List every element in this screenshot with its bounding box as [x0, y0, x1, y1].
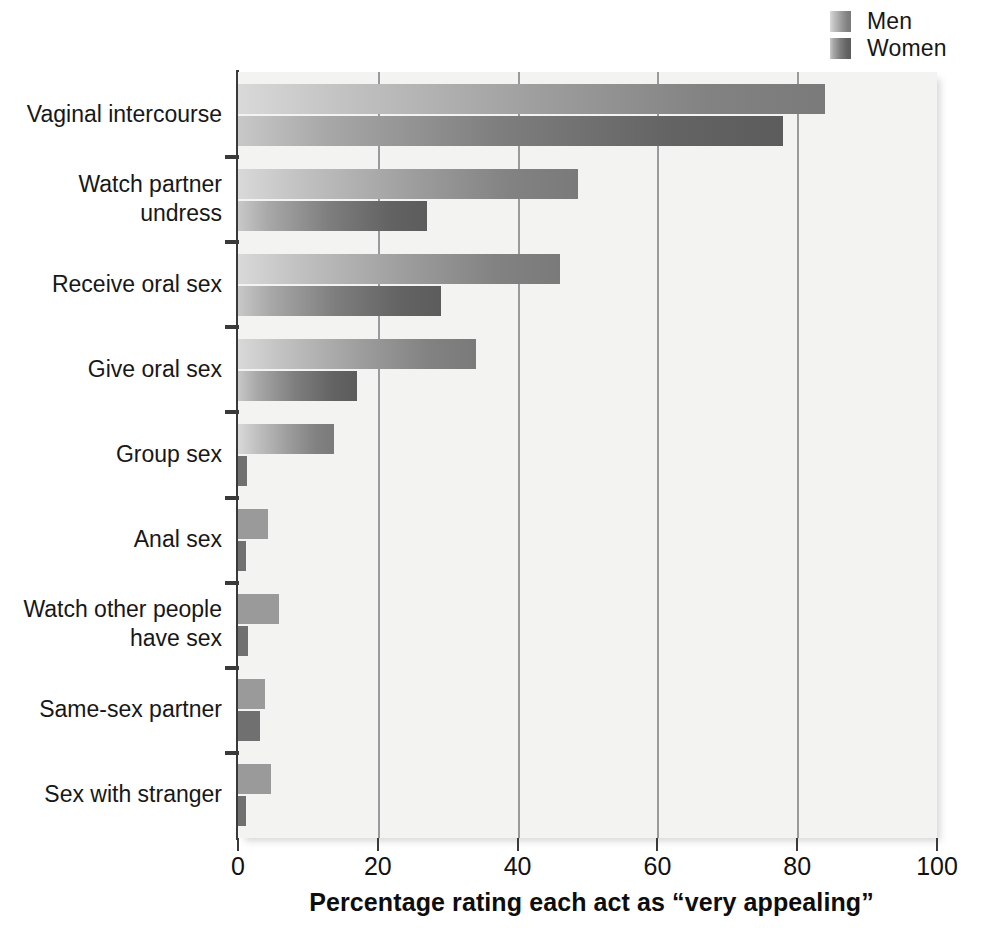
group-tick-3 — [225, 325, 239, 329]
bar-men-2 — [238, 254, 560, 284]
category-label-5: Anal sex — [134, 525, 222, 554]
chart-figure: Men Women Vaginal intercourseWatch partn… — [0, 0, 1003, 946]
x-tick-label-80: 80 — [752, 852, 842, 880]
bar-women-5 — [238, 541, 246, 571]
x-tick-0 — [237, 838, 239, 851]
x-tick-label-40: 40 — [473, 852, 563, 880]
plot-area — [238, 72, 937, 838]
bar-women-0 — [238, 116, 783, 146]
legend-label-women: Women — [867, 37, 947, 60]
category-label-1: Watch partner undress — [78, 170, 222, 228]
bar-men-1 — [238, 169, 578, 199]
bar-women-4 — [238, 456, 247, 486]
bar-men-3 — [238, 339, 476, 369]
group-tick-5 — [225, 496, 239, 500]
bar-women-2 — [238, 286, 441, 316]
category-label-0: Vaginal intercourse — [27, 100, 222, 129]
gridline-80 — [797, 72, 799, 838]
chart-legend: Men Women — [830, 8, 990, 62]
x-tick-20 — [377, 838, 379, 851]
legend-swatch-men — [830, 11, 851, 32]
legend-swatch-women — [830, 38, 851, 59]
bar-men-5 — [238, 509, 268, 539]
x-tick-label-20: 20 — [333, 852, 423, 880]
x-tick-60 — [656, 838, 658, 851]
category-label-7: Same-sex partner — [39, 695, 222, 724]
category-label-2: Receive oral sex — [52, 270, 222, 299]
category-label-4: Group sex — [116, 440, 222, 469]
bar-women-1 — [238, 201, 427, 231]
bar-men-7 — [238, 679, 265, 709]
group-tick-6 — [225, 581, 239, 585]
bar-women-6 — [238, 626, 248, 656]
bar-men-6 — [238, 594, 279, 624]
x-tick-label-100: 100 — [892, 852, 982, 880]
legend-label-men: Men — [867, 10, 912, 33]
group-tick-2 — [225, 240, 239, 244]
x-axis-title: Percentage rating each act as “very appe… — [0, 888, 1003, 917]
gridline-60 — [657, 72, 659, 838]
x-tick-40 — [517, 838, 519, 851]
x-tick-80 — [796, 838, 798, 851]
x-tick-label-0: 0 — [193, 852, 283, 880]
group-tick-8 — [225, 751, 239, 755]
bar-men-0 — [238, 84, 825, 114]
bar-women-3 — [238, 371, 357, 401]
legend-item-women: Women — [830, 35, 990, 62]
group-tick-7 — [225, 666, 239, 670]
bar-women-7 — [238, 711, 260, 741]
bar-women-8 — [238, 796, 246, 826]
bar-men-8 — [238, 764, 271, 794]
group-tick-4 — [225, 410, 239, 414]
bar-men-4 — [238, 424, 334, 454]
x-tick-label-60: 60 — [612, 852, 702, 880]
group-tick-1 — [225, 155, 239, 159]
category-label-3: Give oral sex — [88, 355, 222, 384]
legend-item-men: Men — [830, 8, 990, 35]
category-label-8: Sex with stranger — [44, 780, 222, 809]
x-tick-100 — [936, 838, 938, 851]
category-label-6: Watch other people have sex — [23, 595, 222, 653]
